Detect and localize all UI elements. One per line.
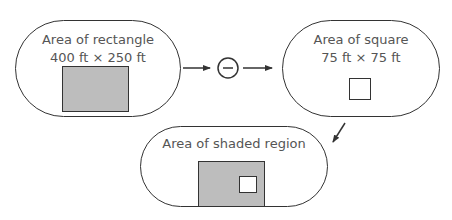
connectors — [0, 0, 452, 220]
arrow-square-to-shaded — [333, 123, 345, 142]
